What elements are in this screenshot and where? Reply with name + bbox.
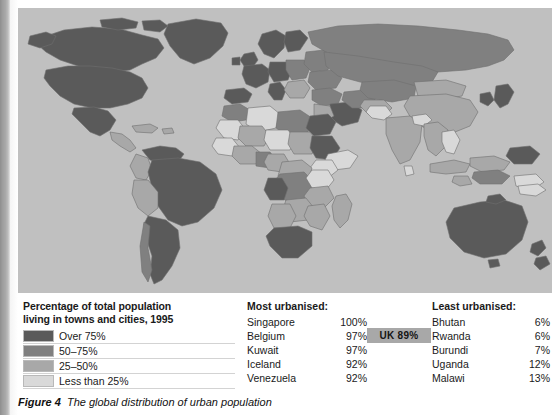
country-value: 92% [333,371,367,385]
page-gutter [0,0,10,415]
legend-item-over-75[interactable]: Over 75% [23,329,235,343]
country-value: 97% [333,329,367,343]
figure-caption-text: The global distribution of urban populat… [67,396,272,408]
legend-title: Percentage of total population living in… [23,300,235,326]
country-value: 13% [516,371,550,385]
figure-page: .c1 { fill:#5a5a5a; } /* over 75 */ .c2 … [0,0,552,415]
country-value: 92% [333,357,367,371]
country-value: 6% [516,329,550,343]
list-item: Kuwait 97% [247,343,367,357]
country-name: Kuwait [247,343,279,357]
country-value: 6% [516,315,550,329]
legend-title-line-1: Percentage of total population [23,300,235,313]
most-urbanised-list: Most urbanised: Singapore 100% Belgium 9… [247,300,367,385]
list-item: Venezuela 92% [247,371,367,385]
list-item: Rwanda 6% [432,329,550,343]
legend-swatch-icon [23,360,54,372]
list-item: Singapore 100% [247,315,367,329]
country-name: Venezuela [247,371,296,385]
country-value: 7% [516,343,550,357]
legend-item-label: 25–50% [59,360,98,372]
legend-item-less-than-25[interactable]: Less than 25% [23,373,235,388]
country-name: Rwanda [432,329,471,343]
legend-swatch-icon [23,345,54,357]
list-item: Iceland 92% [247,357,367,371]
country-value: 97% [333,343,367,357]
legend-item-50-75[interactable]: 50–75% [23,343,235,358]
legend-item-label: Less than 25% [59,375,128,387]
legend-item-label: Over 75% [59,330,106,342]
country-name: Burundi [432,343,468,357]
country-name: Belgium [247,329,285,343]
legend-item-25-50[interactable]: 25–50% [23,358,235,373]
list-item: Bhutan 6% [432,315,550,329]
list-item: Uganda 12% [432,357,550,371]
figure-label: Figure 4 [18,396,61,408]
least-urbanised-heading: Least urbanised: [432,300,550,313]
list-item: Burundi 7% [432,343,550,357]
figure-info-panel: Percentage of total population living in… [18,296,552,392]
list-item: Malawi 13% [432,371,550,385]
world-map-svg: .c1 { fill:#5a5a5a; } /* over 75 */ .c2 … [18,8,552,293]
list-item: Belgium 97% [247,329,367,343]
legend-swatch-icon [23,330,54,342]
least-urbanised-list: Least urbanised: Bhutan 6% Rwanda 6% Bur… [432,300,550,385]
uk-highlight-badge: UK 89% [367,328,431,343]
country-value: 12% [516,357,550,371]
country-value: 100% [333,315,367,329]
country-name: Singapore [247,315,295,329]
most-urbanised-heading: Most urbanised: [247,300,367,313]
legend-title-line-2: living in towns and cities, 1995 [23,313,235,326]
country-name: Malawi [432,371,465,385]
map-legend: Percentage of total population living in… [23,300,235,389]
legend-swatch-icon [23,375,54,387]
figure-caption: Figure 4 The global distribution of urba… [18,396,272,408]
legend-item-label: 50–75% [59,345,98,357]
page-gutter-edge [10,0,18,415]
legend-items: Over 75% 50–75% 25–50% Less than 25% [23,329,235,389]
country-name: Uganda [432,357,469,371]
country-name: Bhutan [432,315,465,329]
country-name: Iceland [247,357,281,371]
world-map[interactable]: .c1 { fill:#5a5a5a; } /* over 75 */ .c2 … [18,8,552,293]
